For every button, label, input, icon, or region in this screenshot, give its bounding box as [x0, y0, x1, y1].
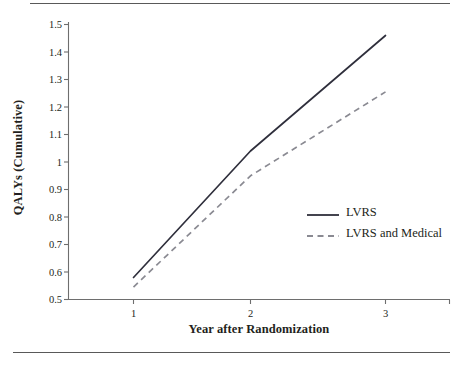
y-axis-title: QALYs (Cumulative) — [11, 78, 26, 238]
legend-label-lvrs-and-medical: LVRS and Medical — [340, 226, 442, 241]
y-tick-label-1-3: 1.3 — [36, 74, 62, 85]
figure-bottom-rule — [13, 352, 450, 353]
y-tick-label-1-1: 1.1 — [36, 129, 62, 140]
x-tick-label-3: 3 — [374, 308, 398, 319]
figure-container: 1.5 1.4 1.3 1.2 1.1 1 0.9 0.8 0.7 0.6 0.… — [0, 0, 469, 367]
chart-legend: LVRS LVRS and Medical — [306, 202, 466, 244]
plot-canvas — [0, 0, 469, 367]
y-tick-label-0-8: 0.8 — [36, 212, 62, 223]
y-tick-label-0-6: 0.6 — [36, 267, 62, 278]
y-tick-label-0-7: 0.7 — [36, 239, 62, 250]
legend-item-lvrs: LVRS — [306, 202, 466, 223]
legend-swatch-solid-icon — [306, 207, 340, 219]
y-tick-label-0-9: 0.9 — [36, 184, 62, 195]
x-axis-title: Year after Randomization — [68, 322, 450, 337]
legend-item-lvrs-and-medical: LVRS and Medical — [306, 223, 466, 244]
legend-swatch-dashed-icon — [306, 228, 340, 240]
y-tick-label-1-2: 1.2 — [36, 102, 62, 113]
x-tick-label-2: 2 — [239, 308, 263, 319]
series-group — [134, 36, 386, 288]
series-line-lvrs-and-medical — [134, 92, 386, 287]
axes-group — [64, 22, 450, 304]
y-tick-label-1: 1 — [36, 157, 62, 168]
y-tick-label-0-5: 0.5 — [36, 294, 62, 305]
y-tick-label-1-4: 1.4 — [36, 47, 62, 58]
y-tick-label-1-5: 1.5 — [36, 19, 62, 30]
x-tick-label-1: 1 — [122, 308, 146, 319]
y-tick-marks — [64, 25, 69, 300]
x-tick-marks — [134, 300, 450, 305]
legend-label-lvrs: LVRS — [340, 205, 377, 220]
